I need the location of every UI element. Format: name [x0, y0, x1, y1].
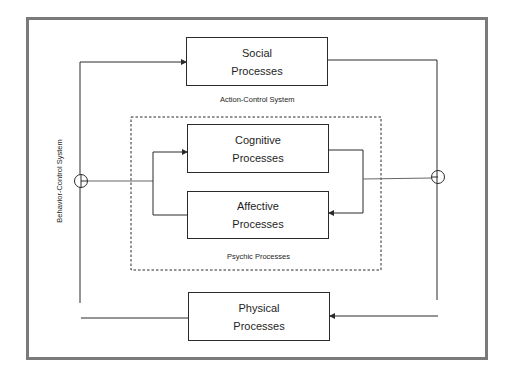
social-line2: Processes — [231, 62, 282, 80]
action-control-label: Action-Control System — [220, 95, 295, 104]
social-line1: Social — [242, 44, 272, 62]
physical-line2: Processes — [233, 317, 284, 335]
psychic-processes-label: Psychic Processes — [227, 252, 290, 261]
cognitive-line1: Cognitive — [235, 131, 281, 149]
affective-line1: Affective — [237, 197, 279, 215]
cognitive-line2: Processes — [232, 149, 283, 167]
diagram-canvas: Social Processes Action-Control System C… — [0, 0, 509, 374]
social-processes-box: Social Processes — [186, 37, 328, 86]
cognitive-processes-box: Cognitive Processes — [187, 124, 329, 173]
affective-line2: Processes — [232, 215, 283, 233]
affective-processes-box: Affective Processes — [187, 191, 329, 239]
physical-processes-box: Physical Processes — [188, 292, 330, 341]
behavior-control-label: Behavior-Control System — [55, 139, 64, 222]
physical-line1: Physical — [239, 299, 280, 317]
